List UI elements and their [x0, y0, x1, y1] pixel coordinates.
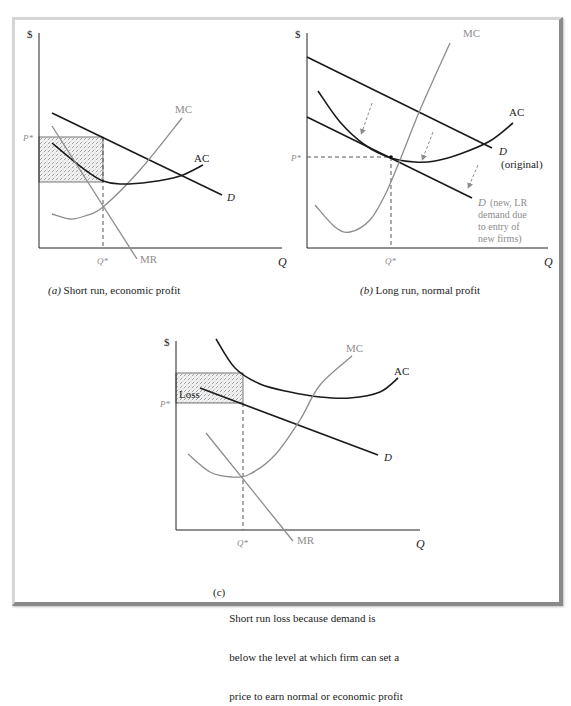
label-d-new-note: (new, LR [490, 197, 527, 209]
caption-c-line-3: price to earn normal or economic profit [229, 690, 403, 703]
caption-a-prefix: (a) [48, 284, 61, 296]
p-star-label: P* [159, 399, 170, 409]
label-d-original: D [498, 145, 507, 157]
y-axis-label: $ [164, 336, 170, 348]
caption-c-prefix: (c) [213, 586, 225, 706]
x-axis-label: Q [416, 537, 425, 551]
label-d-new-note: new firms) [478, 233, 522, 245]
label-d-new-note: demand due [478, 209, 527, 220]
caption-b-text: Long run, normal profit [376, 284, 480, 296]
label-d-new-note: to entry of [478, 221, 520, 232]
panel-long-run-normal-profit: $QP*Q*D(original)D(new, LRdemand dueto e… [290, 27, 553, 269]
label-d: D [226, 191, 235, 203]
caption-panel-c: (c) Short run loss because demand is bel… [213, 560, 403, 706]
curve-ac [318, 91, 513, 162]
label-ac: AC [509, 106, 524, 118]
label-ac: AC [394, 365, 409, 377]
p-star-label: P* [290, 153, 301, 163]
caption-panel-b: (b) Long run, normal profit [360, 284, 480, 297]
label-d: D [383, 451, 392, 463]
label-mr: MR [297, 534, 315, 546]
label-ac: AC [194, 152, 209, 164]
loss-label: Loss [179, 388, 200, 400]
q-star-label: Q* [97, 256, 108, 266]
label-mc: MC [175, 103, 192, 115]
panel-short-run-profit: $QP*Q*DMCACMR [22, 28, 287, 269]
label-d-original-note: (original) [501, 158, 543, 171]
caption-a-text: Short run, economic profit [64, 284, 181, 296]
q-star-label: Q* [385, 256, 396, 266]
q-star-label: Q* [237, 538, 248, 548]
shift-arrow [362, 103, 372, 132]
x-axis-label: Q [544, 255, 553, 269]
curve-d-original [307, 57, 492, 148]
y-axis-label: $ [27, 28, 33, 40]
caption-b-prefix: (b) [360, 284, 373, 296]
x-axis-label: Q [278, 255, 287, 269]
label-mc: MC [463, 27, 480, 39]
shift-arrow [469, 165, 478, 186]
shift-arrow [423, 132, 433, 158]
label-mc: MC [346, 342, 363, 354]
label-d-new: D [477, 196, 486, 208]
caption-c-line-1: Short run loss because demand is [229, 612, 403, 625]
caption-panel-a: (a) Short run, economic profit [48, 284, 180, 297]
tangency-point [389, 155, 393, 159]
p-star-label: P* [22, 133, 33, 143]
panel-short-run-loss: Loss$QP*Q*ACDMCMR [159, 336, 425, 551]
label-mr: MR [140, 253, 158, 265]
y-axis-label: $ [295, 28, 301, 40]
caption-c-line-2: below the level at which firm can set a [229, 651, 403, 664]
